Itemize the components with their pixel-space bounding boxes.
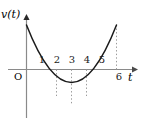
origin-label: O [14, 72, 22, 82]
x-axis-label: t [128, 72, 132, 83]
y-axis-arrowhead [23, 14, 29, 20]
tick-label-2: 2 [51, 55, 63, 65]
tick-label-4: 4 [81, 55, 93, 65]
velocity-time-graph-figure: v(t) t O 1 2 3 4 5 6 [0, 0, 143, 121]
x-axis-arrowhead [132, 66, 138, 72]
tick-label-1: 1 [36, 55, 48, 65]
tick-label-5: 5 [96, 55, 108, 65]
tick-label-6: 6 [113, 72, 125, 82]
tick-label-3: 3 [66, 55, 78, 65]
y-axis-label: v(t) [1, 9, 20, 20]
